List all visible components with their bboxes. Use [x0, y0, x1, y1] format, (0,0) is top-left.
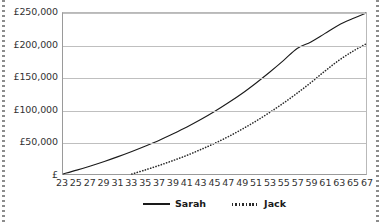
gridline — [63, 111, 366, 112]
series-lines — [63, 13, 366, 174]
y-axis-tick-label: £150,000 — [0, 72, 58, 82]
y-axis-tick-label: £250,000 — [0, 7, 58, 17]
y-axis-tick-label: £200,000 — [0, 40, 58, 50]
chart-legend: Sarah Jack — [62, 195, 367, 213]
series-line-jack — [132, 44, 366, 174]
plot-area — [62, 12, 367, 175]
gridline — [63, 78, 366, 79]
x-axis-labels: 2325272931333537394143454749515355575961… — [62, 177, 367, 191]
legend-swatch-solid-line-icon — [143, 203, 170, 205]
legend-label-jack: Jack — [264, 199, 286, 209]
y-axis-tick-label: £50,000 — [0, 137, 58, 147]
legend-item-sarah: Sarah — [143, 199, 206, 209]
gridline — [63, 143, 366, 144]
series-line-sarah — [63, 13, 366, 174]
gridline — [63, 46, 366, 47]
y-axis-labels: ££50,000£100,000£150,000£200,000£250,000 — [0, 0, 58, 222]
legend-swatch-dotted-line-icon — [232, 203, 259, 206]
gridline — [63, 13, 366, 14]
legend-label-sarah: Sarah — [175, 199, 206, 209]
x-axis-tick-label: 67 — [356, 177, 378, 189]
legend-item-jack: Jack — [232, 199, 286, 209]
y-axis-tick-label: £100,000 — [0, 105, 58, 115]
pension-growth-line-chart: ££50,000£100,000£150,000£200,000£250,000… — [0, 0, 389, 222]
y-axis-tick-label: £ — [0, 170, 58, 180]
